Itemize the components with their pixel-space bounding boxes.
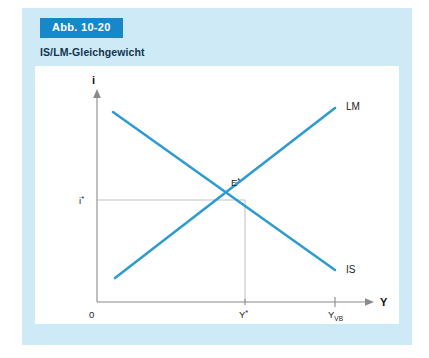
x-tick-label-y-star: Y* <box>239 308 248 320</box>
figure-panel: Abb. 10-20 IS/LM-Gleichgewicht LM IS E* <box>22 8 412 345</box>
is-lm-diagram: LM IS E* i Y i* 0 Y* YVB <box>35 66 399 324</box>
y-axis-arrowhead <box>93 89 101 98</box>
chart-plot-area: LM IS E* i Y i* 0 Y* YVB <box>35 66 399 324</box>
x-axis-label: Y <box>380 296 388 308</box>
x-tick-y-star-star: * <box>245 308 248 317</box>
is-curve <box>113 112 335 270</box>
y-axis-label: i <box>92 74 95 86</box>
x-tick-y-vb-sub: VB <box>334 315 343 322</box>
y-tick-label-i-star: i* <box>79 194 84 206</box>
is-curve-label: IS <box>346 264 356 275</box>
y-tick-label-star: * <box>81 194 84 203</box>
lm-curve-label: LM <box>346 101 360 112</box>
figure-title: IS/LM-Gleichgewicht <box>40 46 145 58</box>
figure-number-badge: Abb. 10-20 <box>40 18 123 38</box>
equilibrium-label-star: * <box>237 176 240 185</box>
origin-label: 0 <box>89 309 94 320</box>
x-tick-label-y-vb: YVB <box>328 309 343 322</box>
x-axis-arrowhead <box>365 298 374 306</box>
equilibrium-point-label: E* <box>231 176 240 188</box>
